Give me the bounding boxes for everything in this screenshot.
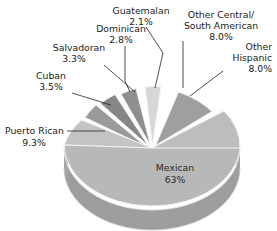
label-mexican-name: Mexican [156, 162, 194, 173]
label-puerto-rican-name: Puerto Rican [5, 125, 64, 136]
label-salvadoran-name: Salvadoran [53, 42, 105, 53]
label-guatemalan-name: Guatemalan [112, 5, 169, 16]
leader-cuban [72, 93, 111, 105]
label-other-central-south-american-line1: Other Central/ [188, 9, 255, 20]
label-cuban-name: Cuban [36, 70, 66, 81]
label-other-central-south-american-value: 8.0% [209, 31, 233, 42]
pie-chart-figure: Guatemalan 2.1% Dominican 2.8% Salvadora… [0, 0, 277, 231]
label-puerto-rican-value: 9.3% [22, 137, 46, 148]
label-salvadoran-value: 3.3% [62, 53, 86, 64]
label-other-hispanic-line1: Other [246, 41, 273, 52]
label-dominican-name: Dominican [96, 23, 146, 34]
leader-salvadoran [104, 65, 135, 92]
label-dominican-value: 2.8% [109, 34, 133, 45]
label-other-hispanic-line2: Hispanic [232, 52, 272, 63]
leader-other-hispanic [190, 71, 223, 96]
label-mexican-value: 63% [165, 174, 186, 185]
label-other-hispanic-value: 8.0% [248, 63, 272, 74]
leader-guatemalan [146, 27, 163, 88]
pie-chart-svg: Guatemalan 2.1% Dominican 2.8% Salvadora… [0, 0, 277, 231]
label-cuban-value: 3.5% [39, 81, 63, 92]
label-other-central-south-american-line2: South American [184, 20, 258, 31]
